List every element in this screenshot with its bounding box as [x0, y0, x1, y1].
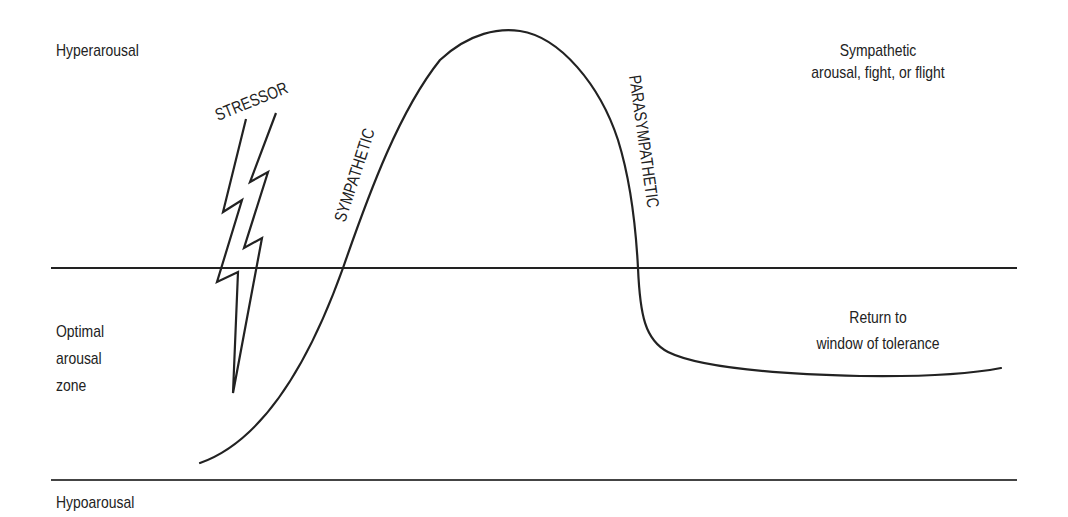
sympathetic-annotation-line-2: arousal, fight, or flight — [780, 62, 977, 84]
lightning-bolt-icon — [217, 113, 276, 393]
stressor-label: STRESSOR — [212, 78, 290, 124]
optimal-label-line-3: zone — [56, 372, 104, 399]
hyperarousal-label: Hyperarousal — [56, 40, 139, 62]
window-of-tolerance-diagram: STRESSOR SYMPATHETIC PARASYMPATHETIC Hyp… — [0, 0, 1068, 517]
optimal-label-line-1: Optimal — [56, 318, 104, 345]
optimal-label-line-2: arousal — [56, 345, 104, 372]
parasympathetic-curve-label: PARASYMPATHETIC — [626, 74, 663, 209]
return-annotation-line-2: window of tolerance — [780, 331, 977, 357]
return-to-window-annotation: Return to window of tolerance — [780, 305, 977, 357]
return-annotation-line-1: Return to — [780, 305, 977, 331]
hypoarousal-label: Hypoarousal — [56, 492, 134, 514]
sympathetic-annotation-line-1: Sympathetic — [780, 40, 977, 62]
sympathetic-curve-label: SYMPATHETIC — [330, 126, 378, 224]
sympathetic-arousal-annotation: Sympathetic arousal, fight, or flight — [780, 40, 977, 84]
optimal-arousal-zone-label: Optimal arousal zone — [56, 318, 104, 399]
arousal-curve — [200, 30, 1001, 463]
